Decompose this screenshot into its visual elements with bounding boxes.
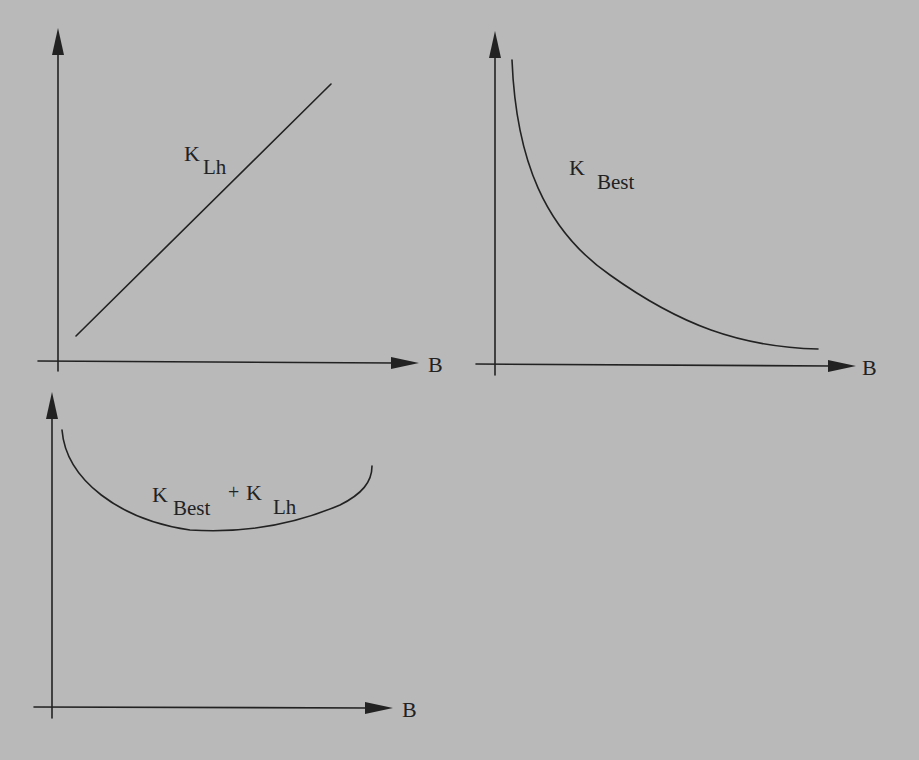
x-axis-arrow-icon — [365, 702, 393, 714]
y-axis-arrow-icon — [46, 392, 58, 419]
x-axis — [476, 364, 832, 366]
y-axis-arrow-icon — [52, 28, 64, 55]
panel1-x-axis-label: B — [428, 354, 443, 376]
panel2-x-axis-label: B — [862, 357, 877, 379]
panel3-x-axis-label: B — [402, 699, 417, 721]
kbest-curve — [512, 60, 818, 349]
panel-sum — [34, 392, 393, 718]
panel-kbest — [476, 31, 856, 375]
klh-label-sub: Lh — [203, 157, 226, 178]
klh-curve — [76, 84, 331, 336]
sum-curve — [62, 430, 372, 531]
x-axis — [34, 707, 369, 708]
kbest-label-main: K — [569, 157, 585, 179]
sum-label-main2: K — [246, 482, 262, 504]
sum-label-sub2: Lh — [273, 497, 296, 518]
sum-label-plus: + — [228, 482, 239, 502]
klh-label-main: K — [184, 143, 200, 165]
sum-label-main1: K — [152, 484, 168, 506]
panel-klh — [38, 28, 419, 371]
kbest-label-sub: Best — [597, 172, 634, 193]
figure-canvas — [0, 0, 919, 760]
x-axis — [38, 361, 395, 363]
x-axis-arrow-icon — [828, 360, 856, 372]
sum-label-sub1: Best — [173, 498, 210, 519]
y-axis-arrow-icon — [489, 31, 501, 58]
x-axis-arrow-icon — [391, 357, 419, 369]
